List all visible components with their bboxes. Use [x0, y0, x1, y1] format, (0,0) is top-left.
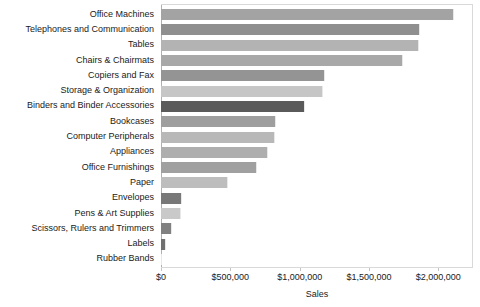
bars-container [161, 7, 472, 267]
x-axis-tick [230, 268, 231, 271]
bar[interactable] [161, 24, 420, 35]
category-label: Telephones and Communication [25, 24, 154, 34]
category-label: Appliances [110, 146, 154, 156]
category-label: Storage & Organization [60, 85, 154, 95]
bar[interactable] [161, 116, 276, 127]
category-label-row: Chairs & Chairmats [0, 52, 158, 67]
bar[interactable] [161, 70, 325, 81]
bar-row[interactable] [161, 145, 472, 160]
bar-row[interactable] [161, 7, 472, 22]
bar-row[interactable] [161, 175, 472, 190]
x-axis-tick [369, 268, 370, 271]
category-label-row: Scissors, Rulers and Trimmers [0, 220, 158, 235]
bar-row[interactable] [161, 206, 472, 221]
category-label: Copiers and Fax [88, 70, 154, 80]
x-axis-tick-label: $0 [156, 272, 166, 283]
bar[interactable] [161, 86, 323, 97]
bar[interactable] [161, 101, 305, 112]
category-label-row: Storage & Organization [0, 82, 158, 97]
category-label: Paper [130, 177, 154, 187]
bar-row[interactable] [161, 252, 472, 267]
category-label: Chairs & Chairmats [76, 55, 154, 65]
bar-row[interactable] [161, 22, 472, 37]
category-label-row: Office Machines [0, 6, 158, 21]
category-label-row: Appliances [0, 144, 158, 159]
category-label-row: Bookcases [0, 113, 158, 128]
category-label: Scissors, Rulers and Trimmers [31, 223, 154, 233]
sales-bar-chart: Office MachinesTelephones and Communicat… [0, 0, 480, 307]
bar-row[interactable] [161, 160, 472, 175]
x-axis-tick-label: $500,000 [212, 272, 250, 283]
bar[interactable] [161, 40, 419, 51]
category-label: Envelopes [112, 192, 154, 202]
bar-row[interactable] [161, 68, 472, 83]
category-label-row: Copiers and Fax [0, 67, 158, 82]
bar[interactable] [161, 9, 454, 20]
x-axis-tick [161, 268, 162, 271]
category-label-row: Office Furnishings [0, 159, 158, 174]
bar[interactable] [161, 162, 257, 173]
category-label-row: Tables [0, 37, 158, 52]
bar[interactable] [161, 193, 182, 204]
bar[interactable] [161, 55, 403, 66]
category-axis: Office MachinesTelephones and Communicat… [0, 6, 158, 266]
bar[interactable] [161, 132, 275, 143]
category-label-row: Telephones and Communication [0, 21, 158, 36]
x-axis-tick-label: $2,000,000 [416, 272, 461, 283]
value-axis: $0$500,000$1,000,000$1,500,000$2,000,000 [161, 268, 473, 286]
bar[interactable] [161, 147, 268, 158]
x-axis-tick [438, 268, 439, 271]
category-label-row: Envelopes [0, 190, 158, 205]
bar-row[interactable] [161, 99, 472, 114]
category-label-row: Pens & Art Supplies [0, 205, 158, 220]
bar[interactable] [161, 208, 181, 219]
category-label: Pens & Art Supplies [74, 208, 154, 218]
category-label: Office Machines [90, 9, 154, 19]
category-label: Computer Peripherals [66, 131, 154, 141]
category-label: Binders and Binder Accessories [27, 100, 154, 110]
bar[interactable] [161, 177, 228, 188]
category-label: Labels [127, 238, 154, 248]
bar-row[interactable] [161, 129, 472, 144]
bar-row[interactable] [161, 53, 472, 68]
bar-row[interactable] [161, 236, 472, 251]
category-label: Office Furnishings [82, 162, 154, 172]
category-label-row: Paper [0, 174, 158, 189]
category-label-row: Rubber Bands [0, 251, 158, 266]
plot-area [161, 4, 473, 268]
bar-row[interactable] [161, 221, 472, 236]
category-label: Rubber Bands [96, 253, 154, 263]
x-axis-tick-label: $1,500,000 [346, 272, 391, 283]
x-axis-tick-label: $1,000,000 [277, 272, 322, 283]
category-label: Bookcases [110, 116, 154, 126]
bar-row[interactable] [161, 38, 472, 53]
category-label-row: Labels [0, 235, 158, 250]
category-label-row: Computer Peripherals [0, 128, 158, 143]
bar-row[interactable] [161, 191, 472, 206]
bar[interactable] [161, 239, 166, 250]
category-label-row: Binders and Binder Accessories [0, 98, 158, 113]
x-axis-title: Sales [161, 289, 473, 300]
category-label: Tables [128, 39, 154, 49]
bar-row[interactable] [161, 83, 472, 98]
bar-row[interactable] [161, 114, 472, 129]
bar[interactable] [161, 254, 162, 265]
x-axis-tick [300, 268, 301, 271]
bar[interactable] [161, 223, 172, 234]
